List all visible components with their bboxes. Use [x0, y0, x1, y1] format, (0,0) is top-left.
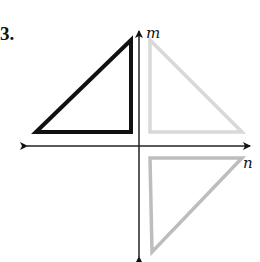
coordinate-diagram: 3. m n — [0, 0, 260, 262]
reflected-triangle-quadrant-1 — [150, 40, 242, 132]
problem-number: 3. — [0, 23, 14, 44]
image-triangle-quadrant-4 — [150, 158, 242, 252]
original-triangle-quadrant-2 — [36, 40, 131, 132]
n-axis-label: n — [243, 154, 253, 172]
m-axis-label: m — [146, 24, 160, 42]
